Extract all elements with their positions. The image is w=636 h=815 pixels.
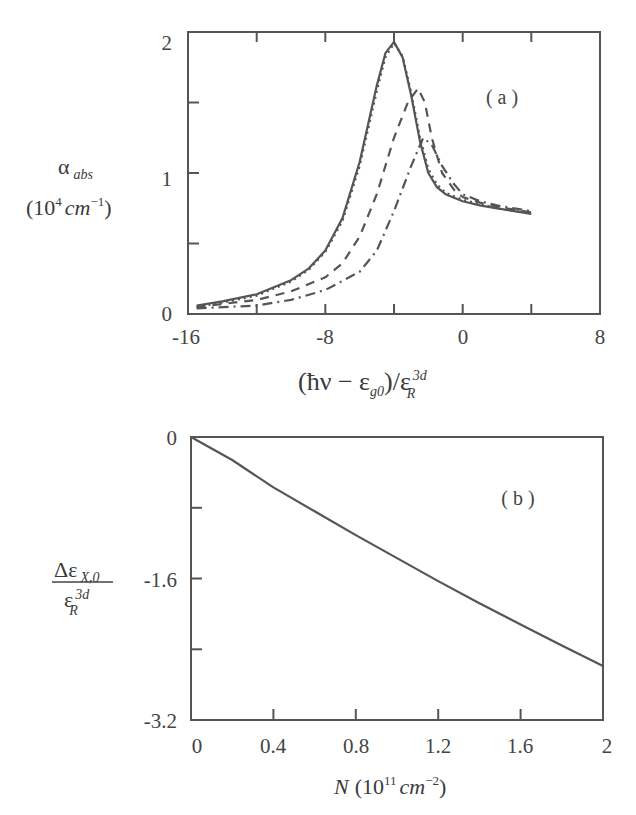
panel-b-xtick-5: 2 <box>602 734 613 758</box>
panel-b-curve <box>191 437 603 666</box>
alpha-symbol: α <box>58 154 70 179</box>
panel-a-y-ticks <box>188 103 199 244</box>
panel-b-xtick-2: 0.8 <box>343 734 369 758</box>
svg-text:αabs: αabs <box>58 154 94 182</box>
figure: 0 1 2 -16 -8 0 8 ( a ) αabs (104cm−1) (ħ… <box>0 0 636 815</box>
svg-text:ΔεX,0: ΔεX,0 <box>54 557 99 585</box>
panel-b-label: ( b ) <box>501 487 534 510</box>
panel-b-xtick-3: 1.2 <box>425 734 451 758</box>
panel-b-ytick-0: 0 <box>167 426 178 450</box>
panel-b: 0 -1.6 -3.2 0 0.4 0.8 1.2 1.6 2 ( b ) Δε… <box>52 426 612 799</box>
panel-a-xlabel: (ħν − εg0)/ε3dR <box>298 367 428 401</box>
panel-a-frame <box>188 32 600 314</box>
panel-b-y-ticks <box>191 508 202 650</box>
panel-a-label: ( a ) <box>486 86 518 109</box>
svg-text:ε3dR: ε3dR <box>64 587 90 618</box>
panel-a-ytick-0: 0 <box>162 302 173 326</box>
panel-b-ytick-1: -1.6 <box>144 568 177 592</box>
panel-b-xtick-4: 1.6 <box>507 734 533 758</box>
panel-a-x-ticks <box>257 32 532 314</box>
panel-a-ytick-2: 2 <box>162 31 173 55</box>
svg-text:(104cm−1): (104cm−1) <box>26 194 112 220</box>
panel-b-xtick-1: 0.4 <box>260 734 287 758</box>
panel-a-ytick-1: 1 <box>162 167 173 191</box>
panel-b-xlabel: N(1011cm−2) <box>333 773 446 799</box>
panel-b-ylabel: ΔεX,0 ε3dR <box>52 557 113 618</box>
panel-b-frame <box>191 437 603 720</box>
panel-a-curve-dashed <box>197 88 532 307</box>
panel-a-xtick-0: -16 <box>172 325 200 349</box>
panel-a-xtick-3: 8 <box>595 325 606 349</box>
panel-a-xtick-2: 0 <box>458 325 469 349</box>
panel-b-ytick-2: -3.2 <box>144 709 177 733</box>
panel-a-xtick-1: -8 <box>316 325 334 349</box>
panel-a-curve-dotted <box>197 43 532 307</box>
panel-b-x-ticks <box>273 709 520 720</box>
panel-a: 0 1 2 -16 -8 0 8 ( a ) αabs (104cm−1) (ħ… <box>26 31 605 401</box>
panel-a-ylabel: αabs (104cm−1) <box>26 154 112 220</box>
panel-b-xtick-0: 0 <box>192 734 203 758</box>
